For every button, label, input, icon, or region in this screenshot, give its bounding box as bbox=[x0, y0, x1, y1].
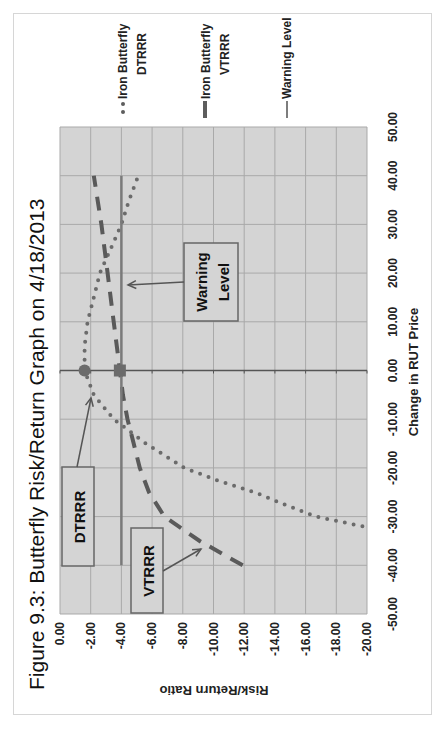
rut-change-ticks: -50.00-40.00-30.00-20.00-10.000.0010.002… bbox=[386, 112, 400, 631]
x-tick-label: 10.00 bbox=[386, 306, 400, 336]
y-tick-label: -20.00 bbox=[360, 622, 374, 656]
y-tick-label: -6.00 bbox=[145, 622, 159, 650]
x-tick-label: 20.00 bbox=[386, 258, 400, 288]
y-tick-label: 0.00 bbox=[53, 622, 67, 646]
vtrrr-marker bbox=[114, 365, 126, 377]
y-tick-label: -16.00 bbox=[299, 622, 313, 656]
y-tick-label: -14.00 bbox=[268, 622, 282, 656]
y-tick-label: -4.00 bbox=[114, 622, 128, 650]
y-tick-label: -8.00 bbox=[176, 622, 190, 650]
risk-return-ticks: 0.00-2.00-4.00-6.00-8.00-10.00-12.00-14.… bbox=[53, 622, 374, 656]
chart-title: Figure 9.3: Butterfly Risk/Return Graph … bbox=[25, 199, 48, 690]
y-tick-label: -18.00 bbox=[329, 622, 343, 656]
x-tick-label: -40.00 bbox=[386, 548, 400, 582]
legend-item-warning: Warning Level bbox=[280, 17, 294, 118]
legend-item-dtrrr: Iron Butterfly DTRRR bbox=[116, 23, 149, 114]
legend-label-vtrrr-1: Iron Butterfly bbox=[199, 23, 213, 99]
x-tick-label: 40.00 bbox=[386, 160, 400, 190]
dtrrr-callout-label: DTRRR bbox=[71, 491, 88, 544]
x-tick-label: -10.00 bbox=[386, 402, 400, 436]
x-tick-label: 0.00 bbox=[386, 358, 400, 382]
legend-label-dtrrr-2: DTRRR bbox=[135, 33, 149, 75]
x-tick-label: 50.00 bbox=[386, 112, 400, 142]
y-axis-title: Risk/Return Ratio bbox=[159, 683, 268, 698]
x-axis-title: Change in RUT Price bbox=[406, 308, 421, 437]
y-tick-label: -12.00 bbox=[237, 622, 251, 656]
legend-label-warning: Warning Level bbox=[280, 17, 294, 99]
legend: Iron Butterfly DTRRR Iron Butterfly VTRR… bbox=[116, 17, 294, 118]
y-tick-label: -2.00 bbox=[84, 622, 98, 650]
x-tick-label: -20.00 bbox=[386, 451, 400, 485]
dtrrr-marker bbox=[79, 365, 91, 377]
legend-item-vtrrr: Iron Butterfly VTRRR bbox=[199, 23, 232, 118]
warning-callout-label-1: Warning bbox=[193, 252, 210, 311]
x-tick-label: -50.00 bbox=[386, 597, 400, 631]
vtrrr-callout-label: VTRRR bbox=[140, 545, 157, 597]
x-tick-label: 30.00 bbox=[386, 209, 400, 239]
legend-label-vtrrr-2: VTRRR bbox=[218, 33, 232, 75]
x-tick-label: -30.00 bbox=[386, 499, 400, 533]
warning-callout-label-2: Level bbox=[215, 263, 232, 301]
chart: DTRRRVTRRRWarningLevel 0.00-2.00-4.00-6.… bbox=[0, 0, 447, 733]
legend-label-dtrrr-1: Iron Butterfly bbox=[116, 23, 130, 99]
y-tick-label: -10.00 bbox=[207, 622, 221, 656]
